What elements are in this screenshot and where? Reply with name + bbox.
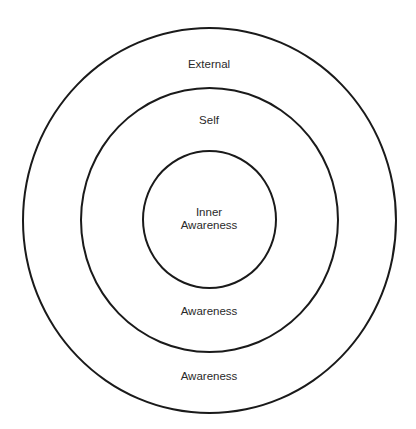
inner-ring-label-line2: Awareness (0, 219, 416, 232)
inner-ring-label-line1: Inner (0, 206, 416, 219)
middle-ring-label-top: Self (0, 114, 416, 127)
outer-ring-label-bottom: Awareness (0, 370, 416, 383)
concentric-awareness-diagram: External Self Inner Awareness Awareness … (0, 0, 416, 429)
middle-ring-label-bottom: Awareness (0, 305, 416, 318)
outer-ring-label-top: External (0, 58, 416, 71)
